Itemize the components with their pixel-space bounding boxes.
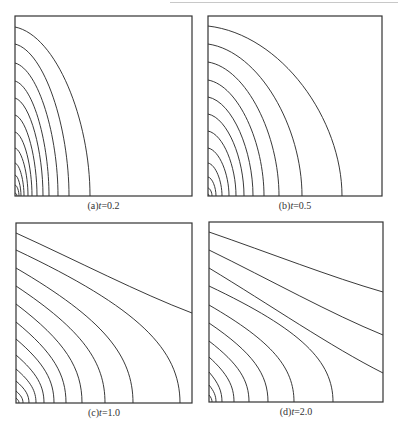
contour-line bbox=[16, 304, 82, 403]
caption-a: (a)t=0.2 bbox=[87, 200, 119, 211]
caption-c: (c)t=1.0 bbox=[88, 407, 120, 418]
contour-line bbox=[209, 385, 216, 402]
top-rule bbox=[170, 2, 398, 3]
contour-line bbox=[209, 232, 383, 292]
plot-frame bbox=[208, 16, 382, 196]
contour-line bbox=[15, 27, 90, 196]
caption-c-label: (c) bbox=[88, 407, 99, 418]
contour-line bbox=[208, 148, 229, 196]
contour-line bbox=[16, 268, 133, 403]
caption-d-value: =2.0 bbox=[294, 406, 312, 417]
contour-line bbox=[208, 163, 222, 196]
contour-line bbox=[15, 148, 28, 196]
caption-a-value: =0.2 bbox=[101, 200, 119, 211]
caption-b-label: (b) bbox=[279, 200, 291, 211]
contour-plot bbox=[208, 16, 382, 196]
contour-plot bbox=[209, 222, 383, 402]
contour-line bbox=[15, 163, 24, 196]
contour-line bbox=[208, 80, 264, 196]
plot-frame bbox=[209, 222, 383, 402]
caption-d-label: (d) bbox=[280, 406, 292, 417]
caption-d: (d)t=2.0 bbox=[280, 406, 313, 417]
contour-plot bbox=[15, 16, 192, 196]
plot-frame bbox=[16, 223, 192, 403]
caption-b-value: =0.5 bbox=[293, 200, 311, 211]
caption-c-value: =1.0 bbox=[102, 407, 120, 418]
panel-b bbox=[208, 16, 382, 196]
panel-d bbox=[209, 222, 383, 402]
contour-line bbox=[16, 369, 36, 403]
contour-line bbox=[15, 81, 49, 196]
contour-line bbox=[16, 391, 23, 403]
contour-plot bbox=[16, 223, 192, 403]
contour-line bbox=[209, 323, 268, 402]
contour-line bbox=[16, 233, 192, 313]
caption-a-label: (a) bbox=[87, 200, 98, 211]
contour-line bbox=[209, 305, 294, 402]
panel-c bbox=[16, 223, 192, 403]
contour-line bbox=[208, 97, 253, 196]
panel-a bbox=[15, 16, 192, 196]
caption-b: (b)t=0.5 bbox=[279, 200, 312, 211]
